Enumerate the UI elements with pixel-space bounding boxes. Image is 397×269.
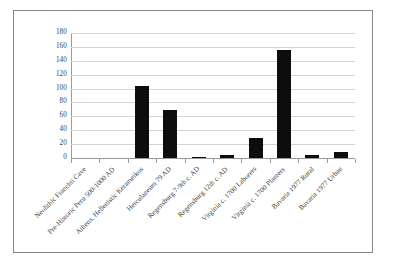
x-tick-mark [327,159,328,163]
bar [135,86,149,158]
bar [277,50,291,158]
gridline-20 [71,144,355,145]
y-tick-label-20: 20 [33,140,67,147]
x-tick-mark [355,159,356,163]
x-tick-mark [99,159,100,163]
gridline-160 [71,47,355,48]
y-axis-tick-labels: 180160140120100806040200 [29,33,67,158]
bar [220,155,234,158]
y-tick-label-140: 140 [33,57,67,64]
plot-area [71,33,355,158]
gridline-60 [71,116,355,117]
bar [334,152,348,158]
y-tick-label-80: 80 [33,98,67,105]
gridline-180 [71,33,355,34]
gridline-140 [71,61,355,62]
x-axis-ticks [71,159,355,164]
x-tick-mark [128,159,129,163]
x-tick-mark [156,159,157,163]
y-tick-label-180: 180 [33,29,67,36]
bar [192,157,206,158]
y-tick-label-160: 160 [33,43,67,50]
x-tick-mark [298,159,299,163]
x-tick-mark [241,159,242,163]
bar [163,110,177,158]
gridline-120 [71,75,355,76]
y-tick-label-40: 40 [33,126,67,133]
x-tick-mark [71,159,72,163]
x-tick-mark [185,159,186,163]
bar [305,155,319,158]
gridline-80 [71,102,355,103]
bar [249,138,263,158]
chart-figure: 180160140120100806040200 Neolithic Franc… [0,0,397,269]
gridline-100 [71,89,355,90]
y-tick-label-60: 60 [33,112,67,119]
x-tick-mark [213,159,214,163]
x-tick-mark [270,159,271,163]
y-tick-label-100: 100 [33,85,67,92]
y-tick-label-120: 120 [33,71,67,78]
y-tick-label-0: 0 [33,154,67,161]
gridline-40 [71,130,355,131]
